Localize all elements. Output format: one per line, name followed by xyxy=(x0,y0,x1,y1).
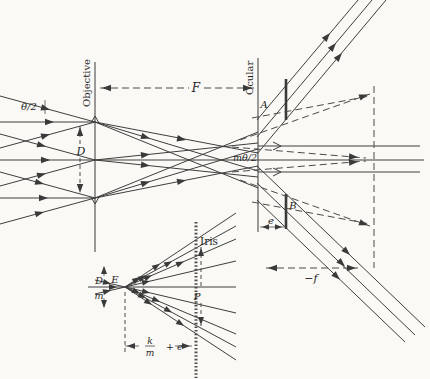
e-label: e xyxy=(268,215,274,226)
objective-label: Objective xyxy=(81,59,92,107)
minus-f-label: −f xyxy=(304,272,319,285)
F-label: F xyxy=(191,81,201,95)
km-numerator: k xyxy=(147,336,152,346)
P-label: P xyxy=(193,291,201,302)
Dm-numerator: D xyxy=(94,275,103,286)
D-label: D xyxy=(76,145,86,158)
telescope-ray-diagram: θ/2 Objective D Ocular xyxy=(0,0,430,379)
iris-label: Iris xyxy=(200,235,218,247)
point-E-label: E xyxy=(110,274,119,285)
theta-half-label: θ/2 xyxy=(21,101,37,112)
m-theta-half-label: mθ/2 xyxy=(233,152,257,163)
point-B-label: B xyxy=(288,200,296,211)
point-A-label: A xyxy=(259,99,267,110)
Dm-denominator: m xyxy=(94,290,103,301)
km-denominator: m xyxy=(146,348,155,358)
km-suffix: + e xyxy=(166,341,183,352)
